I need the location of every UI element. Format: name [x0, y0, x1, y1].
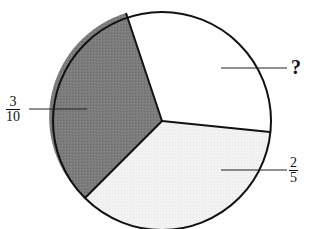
denominator: 5	[289, 171, 298, 185]
numerator: 2	[289, 156, 298, 171]
denominator: 10	[6, 110, 20, 124]
label-two-fifths: 2 5	[289, 156, 298, 185]
pie-chart	[0, 0, 310, 229]
label-three-tenths: 3 10	[6, 95, 20, 124]
label-unknown: ?	[291, 56, 301, 79]
numerator: 3	[6, 95, 20, 110]
